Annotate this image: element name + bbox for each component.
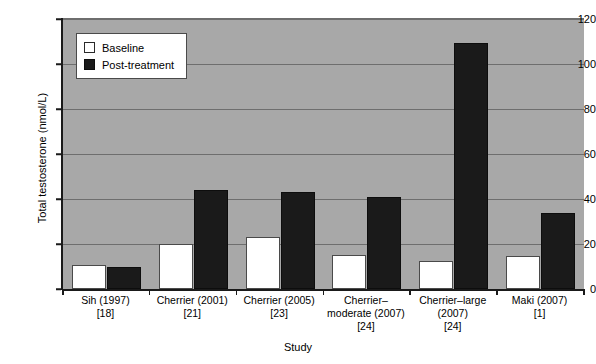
legend-item-post-treatment: Post-treatment: [84, 56, 174, 73]
x-tick-label-line: [24]: [397, 320, 508, 333]
bar-baseline: [246, 237, 280, 289]
gridline: [63, 199, 584, 200]
gridline: [63, 19, 584, 20]
bar-post-treatment: [281, 192, 315, 289]
legend: Baseline Post-treatment: [76, 33, 187, 79]
y-tick-mark: [56, 63, 61, 65]
y-tick-mark: [56, 153, 61, 155]
y-tick-label: 120: [552, 13, 596, 25]
bar-baseline: [72, 265, 106, 289]
y-tick-mark: [56, 243, 61, 245]
gridline: [63, 244, 584, 245]
x-tick-label: Maki (2007)[1]: [484, 294, 595, 320]
gridline: [63, 109, 584, 110]
y-tick-label: 80: [552, 103, 596, 115]
y-tick-mark: [56, 198, 61, 200]
bar-chart: Total testosterone (nmol/L) 020406080100…: [0, 0, 596, 364]
x-tick-label-line: Maki (2007): [484, 294, 595, 307]
y-tick-mark: [56, 108, 61, 110]
y-axis-title: Total testosterone (nmol/L): [36, 28, 48, 288]
legend-label-baseline: Baseline: [102, 42, 144, 54]
y-tick-mark: [56, 288, 61, 290]
gridline: [63, 154, 584, 155]
legend-swatch-post-treatment-icon: [84, 59, 95, 70]
bar-post-treatment: [541, 213, 575, 290]
legend-label-post-treatment: Post-treatment: [102, 59, 174, 71]
bar-post-treatment: [454, 43, 488, 289]
y-tick-label: 100: [552, 58, 596, 70]
y-axis-line: [61, 18, 63, 290]
bar-post-treatment: [367, 197, 401, 289]
x-tick-label-line: [1]: [484, 307, 595, 320]
y-tick-label: 60: [552, 148, 596, 160]
bar-baseline: [159, 244, 193, 289]
y-tick-label: 20: [552, 238, 596, 250]
bar-post-treatment: [107, 267, 141, 290]
y-tick-mark: [56, 18, 61, 20]
bar-baseline: [332, 255, 366, 289]
bar-post-treatment: [194, 190, 228, 289]
y-tick-label: 40: [552, 193, 596, 205]
legend-swatch-baseline-icon: [84, 42, 95, 53]
bar-baseline: [419, 261, 453, 289]
bar-baseline: [506, 256, 540, 289]
x-axis-title: Study: [0, 341, 596, 353]
legend-item-baseline: Baseline: [84, 39, 174, 56]
